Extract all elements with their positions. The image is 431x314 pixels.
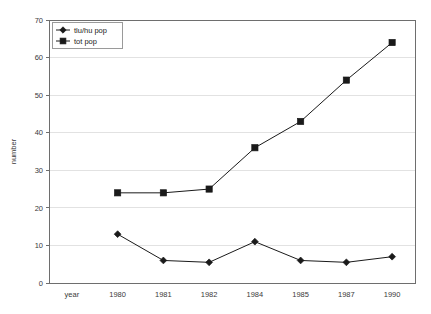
data-point-marker [160, 257, 167, 264]
y-tick-label: 10 [35, 241, 43, 250]
y-tick-label: 60 [35, 53, 43, 62]
data-point-marker [389, 253, 396, 260]
y-tick-label: 70 [35, 16, 43, 25]
x-tick-label: 1987 [338, 290, 355, 299]
x-tick-label: 1981 [155, 290, 172, 299]
data-point-marker [389, 39, 395, 45]
axis-titles: number [9, 138, 18, 164]
x-tick-label: 1985 [292, 290, 309, 299]
data-point-marker [114, 231, 121, 238]
data-point-marker [252, 145, 258, 151]
data-point-marker [206, 259, 213, 266]
y-tick-label: 30 [35, 166, 43, 175]
x-axis: year1980198119821984198519871990 [65, 290, 401, 299]
y-tick-label: 0 [39, 279, 43, 288]
legend-label: tlu/hu pop [74, 26, 107, 35]
line-chart: 010203040506070 year19801981198219841985… [0, 0, 431, 314]
data-point-marker [160, 190, 166, 196]
y-tick-label: 50 [35, 91, 43, 100]
x-tick-label: year [65, 290, 80, 299]
chart-container: 010203040506070 year19801981198219841985… [0, 0, 431, 314]
series-layer [114, 39, 395, 265]
data-point-marker [251, 238, 258, 245]
data-point-marker [343, 77, 349, 83]
chart-legend: tlu/hu poptot pop [52, 22, 122, 48]
plot-area-border [49, 20, 415, 283]
y-tick-label: 40 [35, 128, 43, 137]
data-point-marker [206, 186, 212, 192]
x-tick-label: 1980 [109, 290, 126, 299]
data-point-marker [115, 190, 121, 196]
x-tick-label: 1990 [384, 290, 401, 299]
series-tot-pop [115, 39, 396, 195]
x-tick-label: 1984 [247, 290, 264, 299]
y-axis-title: number [9, 138, 18, 164]
legend-label: tot pop [74, 37, 97, 46]
plot-frame [49, 20, 415, 283]
legend-marker [60, 38, 66, 44]
series-tlu-hu-pop [114, 231, 395, 266]
data-point-marker [343, 259, 350, 266]
y-tick-label: 20 [35, 204, 43, 213]
grid-lines [49, 20, 415, 245]
data-point-marker [298, 118, 304, 124]
y-axis: 010203040506070 [35, 16, 49, 288]
x-tick-label: 1982 [201, 290, 218, 299]
data-point-marker [297, 257, 304, 264]
